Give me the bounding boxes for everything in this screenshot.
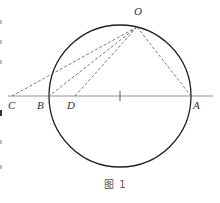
edge-fragment	[0, 40, 2, 44]
edge-fragment	[0, 165, 2, 169]
segment-OB	[49, 27, 137, 96]
edge-fragment	[0, 110, 2, 116]
edge-fragment	[0, 60, 2, 64]
segment-OA	[137, 27, 191, 96]
figure-caption: 图 1	[104, 180, 127, 190]
segment-OD	[75, 27, 137, 96]
label-O: O	[134, 6, 142, 17]
label-B: B	[37, 100, 44, 111]
figure-1: O C B D A 图 1	[0, 0, 220, 203]
edge-fragment	[0, 20, 2, 24]
label-C: C	[8, 100, 15, 111]
label-A: A	[193, 100, 200, 111]
segment-OC	[12, 27, 137, 96]
label-D: D	[67, 100, 75, 111]
edge-fragment	[0, 140, 2, 144]
geometry-diagram	[0, 0, 220, 203]
